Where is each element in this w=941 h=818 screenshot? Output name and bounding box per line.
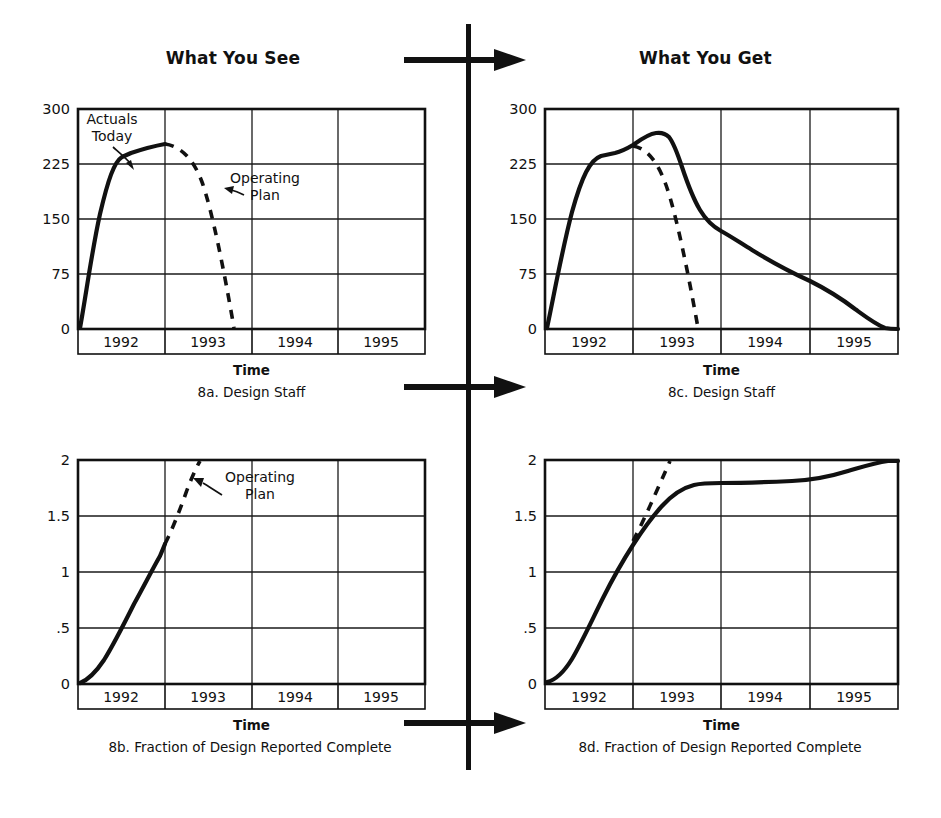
ytick-label: 225 <box>509 156 537 172</box>
chart-8d: 2 1.5 1 .5 0 1992 1993 1994 1995 <box>470 440 941 730</box>
year-label: 1992 <box>103 689 139 705</box>
xaxis-title-8d: Time <box>545 717 898 733</box>
year-label: 1995 <box>363 689 399 705</box>
annotation-actuals-today-line1: Actuals <box>86 111 137 127</box>
chart-8b: 2 1.5 1 .5 0 1992 1993 1994 1995 <box>0 440 466 730</box>
annotation-plan-leader <box>231 190 244 195</box>
year-label: 1995 <box>363 334 399 350</box>
ytick-label: 1.5 <box>47 508 70 524</box>
year-label: 1995 <box>836 334 872 350</box>
xaxis-title-8c: Time <box>545 362 898 378</box>
annotation-plan-arrowhead <box>193 478 204 487</box>
figure-page: What You See What You Get 300 225 150 75… <box>0 0 941 818</box>
year-label: 1992 <box>571 334 607 350</box>
ytick-label: 0 <box>528 676 537 692</box>
year-label: 1993 <box>190 689 226 705</box>
series-operating-plan <box>633 146 698 328</box>
year-label: 1994 <box>277 689 313 705</box>
series-actuals-today <box>80 144 165 328</box>
ytick-label: 300 <box>42 101 70 117</box>
header-what-you-see: What You See <box>0 48 466 68</box>
chart-8a: 300 225 150 75 0 1992 1993 1994 1995 <box>0 90 466 380</box>
panel-8c: 300 225 150 75 0 1992 1993 1994 1995 <box>470 90 941 380</box>
annotation-operating-plan-line2: Plan <box>250 187 280 203</box>
annotation-plan-leader <box>203 483 222 495</box>
ytick-label: .5 <box>523 620 537 636</box>
xaxis-title-8b: Time <box>78 717 425 733</box>
annotation-operating-plan-line2: Plan <box>245 486 275 502</box>
ytick-label: 300 <box>509 101 537 117</box>
ytick-label: 150 <box>42 211 70 227</box>
caption-8c: 8c. Design Staff <box>545 384 898 400</box>
ytick-label: 2 <box>61 452 70 468</box>
ytick-label: 0 <box>61 321 70 337</box>
ytick-label: 225 <box>42 156 70 172</box>
annotation-plan-arrowhead <box>224 186 234 194</box>
year-label: 1992 <box>571 689 607 705</box>
ytick-label: 1 <box>528 564 537 580</box>
annotation-actuals-arrowhead <box>126 160 134 170</box>
year-label: 1995 <box>836 689 872 705</box>
header-what-you-get: What You Get <box>470 48 941 68</box>
panel-8b: 2 1.5 1 .5 0 1992 1993 1994 1995 <box>0 440 466 730</box>
ytick-label: 1 <box>61 564 70 580</box>
year-label: 1994 <box>747 334 783 350</box>
ytick-label: 2 <box>528 452 537 468</box>
annotation-operating-plan-line1: Operating <box>225 469 295 485</box>
series-actuals-today <box>80 544 165 683</box>
caption-8a: 8a. Design Staff <box>78 384 425 400</box>
ytick-label: 0 <box>61 676 70 692</box>
ytick-label: 1.5 <box>514 508 537 524</box>
panel-8d: 2 1.5 1 .5 0 1992 1993 1994 1995 <box>470 440 941 730</box>
xaxis-title-8a: Time <box>78 362 425 378</box>
caption-8d: 8d. Fraction of Design Reported Complete <box>500 739 940 755</box>
ytick-label: 75 <box>52 266 70 282</box>
series-operating-plan <box>165 461 200 544</box>
ytick-label: .5 <box>56 620 70 636</box>
panel-8a: 300 225 150 75 0 1992 1993 1994 1995 <box>0 90 466 380</box>
year-label: 1993 <box>659 689 695 705</box>
caption-8b: 8b. Fraction of Design Reported Complete <box>30 739 470 755</box>
year-label: 1994 <box>747 689 783 705</box>
series-operating-plan <box>165 144 234 328</box>
chart-8c: 300 225 150 75 0 1992 1993 1994 1995 <box>470 90 941 380</box>
series-actuals <box>547 133 898 329</box>
year-label: 1994 <box>277 334 313 350</box>
annotation-operating-plan-line1: Operating <box>230 170 300 186</box>
year-label: 1993 <box>190 334 226 350</box>
ytick-label: 0 <box>528 321 537 337</box>
ytick-label: 150 <box>509 211 537 227</box>
year-label: 1993 <box>659 334 695 350</box>
year-label: 1992 <box>103 334 139 350</box>
annotation-actuals-today-line2: Today <box>91 128 133 144</box>
ytick-label: 75 <box>519 266 537 282</box>
